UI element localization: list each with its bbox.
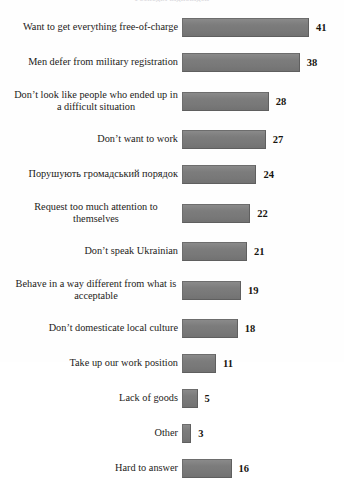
category-label: Want to get everything free-of-charge bbox=[0, 21, 182, 33]
chart-row: Lack of goods5 bbox=[0, 381, 344, 416]
category-label: Other bbox=[0, 427, 182, 439]
bar-value-label: 22 bbox=[257, 208, 268, 219]
category-label: Don’t speak Ukrainian bbox=[0, 245, 182, 257]
bar bbox=[182, 242, 247, 261]
bar bbox=[182, 354, 216, 373]
bar-value-label: 5 bbox=[205, 393, 210, 404]
chart-row: Don’t domesticate local culture18 bbox=[0, 311, 344, 346]
bar-value-label: 16 bbox=[239, 463, 250, 474]
chart-row: Порушують громадський порядок24 bbox=[0, 157, 344, 192]
bar-value-label: 18 bbox=[245, 323, 256, 334]
category-label: Hard to answer bbox=[0, 462, 182, 474]
bar-value-label: 24 bbox=[263, 169, 274, 180]
chart-row: Don’t speak Ukrainian21 bbox=[0, 234, 344, 269]
chart-row: Men defer from military registration38 bbox=[0, 45, 344, 80]
bar-area: 38 bbox=[182, 45, 344, 80]
bar-area: 22 bbox=[182, 192, 344, 234]
chart-row: Take up our work position11 bbox=[0, 346, 344, 381]
bar bbox=[182, 319, 238, 338]
category-label: Take up our work position bbox=[0, 357, 182, 369]
bar-value-label: 41 bbox=[316, 22, 327, 33]
chart-row: Other3 bbox=[0, 416, 344, 451]
bar-value-label: 3 bbox=[198, 428, 203, 439]
bar-value-label: 27 bbox=[273, 134, 284, 145]
chart-row: Want to get everything free-of-charge41 bbox=[0, 10, 344, 45]
bar bbox=[182, 389, 198, 408]
category-label: Men defer from military registration bbox=[0, 56, 182, 68]
bar-area: 19 bbox=[182, 269, 344, 311]
bar-area: 18 bbox=[182, 311, 344, 346]
category-label: Don’t want to work bbox=[0, 133, 182, 145]
bar-value-label: 28 bbox=[276, 96, 287, 107]
bar-area: 5 bbox=[182, 381, 344, 416]
bar-area: 24 bbox=[182, 157, 344, 192]
chart-row: Behave in a way different from what is a… bbox=[0, 269, 344, 311]
category-label: Behave in a way different from what is a… bbox=[0, 278, 182, 303]
bar bbox=[182, 204, 250, 223]
bar-area: 16 bbox=[182, 451, 344, 482]
category-label: Don’t look like people who ended up in a… bbox=[0, 89, 182, 114]
chart-rows: Want to get everything free-of-charge41M… bbox=[0, 10, 344, 482]
category-label: Don’t domesticate local culture bbox=[0, 322, 182, 334]
bar-area: 21 bbox=[182, 234, 344, 269]
chart-row: Don’t want to work27 bbox=[0, 122, 344, 157]
chart-row: Don’t look like people who ended up in a… bbox=[0, 80, 344, 122]
bar bbox=[182, 459, 232, 478]
bar-area: 27 bbox=[182, 122, 344, 157]
bar-value-label: 11 bbox=[223, 358, 233, 369]
bar-area: 41 bbox=[182, 10, 344, 45]
category-label: Lack of goods bbox=[0, 392, 182, 404]
bar-area: 28 bbox=[182, 80, 344, 122]
bar bbox=[182, 130, 266, 149]
category-label: Порушують громадський порядок bbox=[0, 168, 182, 180]
bar-value-label: 21 bbox=[254, 246, 265, 257]
bar-value-label: 19 bbox=[248, 285, 259, 296]
bar-value-label: 38 bbox=[307, 57, 318, 68]
bar bbox=[182, 165, 256, 184]
chart-row: Hard to answer16 bbox=[0, 451, 344, 482]
bar bbox=[182, 281, 241, 300]
bar-area: 3 bbox=[182, 416, 344, 451]
bar bbox=[182, 53, 300, 72]
chart-row: Request too much attention to themselves… bbox=[0, 192, 344, 234]
bar bbox=[182, 424, 191, 443]
bar bbox=[182, 18, 309, 37]
bar bbox=[182, 92, 269, 111]
bar-area: 11 bbox=[182, 346, 344, 381]
category-label: Request too much attention to themselves bbox=[0, 201, 182, 226]
clipped-figure-heading: Розподіл відповідей bbox=[0, 0, 344, 2]
